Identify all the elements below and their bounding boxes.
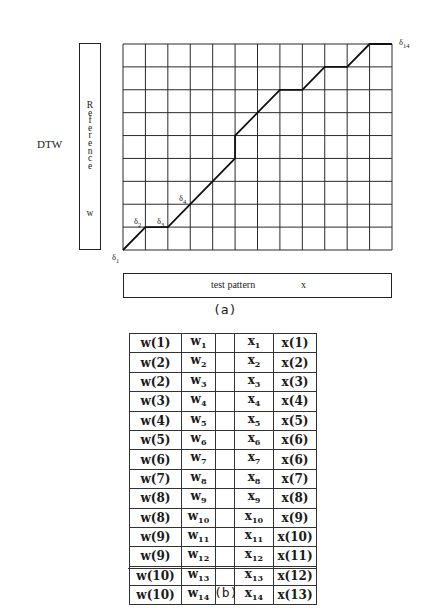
w-index-cell: w(2) (130, 372, 182, 391)
table-row: w(9)w12x12x(11) (130, 547, 317, 566)
w-sub-cell: w5 (182, 411, 216, 430)
dtw-diagram: DTW R e f e r e n c e w δ1 δ2 δ3 δ4 δ14 … (0, 0, 435, 330)
spacer-cell (216, 450, 235, 469)
x-sub-cell: x7 (235, 450, 274, 469)
x-sub-cell: x14 (235, 586, 274, 605)
spacer-cell (216, 527, 235, 546)
w-index-cell: w(3) (130, 392, 182, 411)
alignment-table-body: w(1)w1x1x(1)w(2)w2x2x(2)w(2)w3x3x(3)w(3)… (130, 334, 317, 605)
w-sub-cell: w13 (182, 566, 216, 585)
table-row: w(9)w11x11x(10) (130, 527, 317, 546)
table-row: w(10)w13x13x(12) (130, 566, 317, 585)
x-sub-cell: x3 (235, 372, 274, 391)
x-sub-cell: x13 (235, 566, 274, 585)
delta-2-label: δ2 (134, 216, 141, 228)
x-index-cell: x(1) (274, 334, 317, 353)
w-sub-cell: w14 (182, 586, 216, 605)
caption-a: (a) (213, 302, 236, 317)
x-sub-cell: x4 (235, 392, 274, 411)
w-index-cell: w(5) (130, 430, 182, 449)
x-index-cell: x(9) (274, 508, 317, 527)
w-sub-cell: w9 (182, 489, 216, 508)
x-index-cell: x(4) (274, 392, 317, 411)
spacer-cell (216, 566, 235, 585)
w-index-cell: w(1) (130, 334, 182, 353)
x-index-cell: x(2) (274, 353, 317, 372)
w-index-cell: w(8) (130, 508, 182, 527)
x-index-cell: x(7) (274, 469, 317, 488)
delta-1-label: δ1 (112, 252, 119, 264)
table-row: w(8)w9x9x(8) (130, 489, 317, 508)
w-index-cell: w(9) (130, 527, 182, 546)
w-sub-cell: w8 (182, 469, 216, 488)
w-index-cell: w(10) (130, 586, 182, 605)
x-index-cell: x(6) (274, 430, 317, 449)
test-pattern-symbol: x (301, 279, 306, 290)
x-sub-cell: x9 (235, 489, 274, 508)
w-sub-cell: w1 (182, 334, 216, 353)
caption-b: (b) (214, 585, 237, 600)
w-index-cell: w(7) (130, 469, 182, 488)
table-row: w(2)w2x2x(2) (130, 353, 317, 372)
x-sub-cell: x5 (235, 411, 274, 430)
spacer-cell (216, 411, 235, 430)
spacer-cell (216, 430, 235, 449)
x-sub-cell: x8 (235, 469, 274, 488)
spacer-cell (216, 392, 235, 411)
x-index-cell: x(5) (274, 411, 317, 430)
x-index-cell: x(11) (274, 547, 317, 566)
table-row: w(8)w10x10x(9) (130, 508, 317, 527)
w-sub-cell: w7 (182, 450, 216, 469)
x-index-cell: x(12) (274, 566, 317, 585)
spacer-cell (216, 334, 235, 353)
spacer-cell (216, 547, 235, 566)
spacer-cell (216, 489, 235, 508)
x-index-cell: x(10) (274, 527, 317, 546)
x-sub-cell: x1 (235, 334, 274, 353)
table-row: w(1)w1x1x(1) (130, 334, 317, 353)
w-sub-cell: w10 (182, 508, 216, 527)
x-sub-cell: x12 (235, 547, 274, 566)
w-index-cell: w(8) (130, 489, 182, 508)
w-index-cell: w(10) (130, 566, 182, 585)
spacer-cell (216, 508, 235, 527)
spacer-cell (216, 372, 235, 391)
table-row: w(3)w4x4x(4) (130, 392, 317, 411)
w-index-cell: w(9) (130, 547, 182, 566)
delta-14-label: δ14 (399, 37, 410, 49)
x-sub-cell: x6 (235, 430, 274, 449)
x-index-cell: x(8) (274, 489, 317, 508)
x-index-cell: x(6) (274, 450, 317, 469)
w-sub-cell: w3 (182, 372, 216, 391)
delta-4-label: δ4 (179, 193, 186, 205)
test-pattern-box: test pattern x (123, 273, 392, 298)
table-row: w(5)w6x6x(6) (130, 430, 317, 449)
x-index-cell: x(13) (274, 586, 317, 605)
spacer-cell (216, 353, 235, 372)
table-row: w(4)w5x5x(5) (130, 411, 317, 430)
table-row: w(2)w3x3x(3) (130, 372, 317, 391)
test-pattern-label: test pattern (211, 279, 255, 290)
table-row: w(7)w8x8x(7) (130, 469, 317, 488)
w-sub-cell: w2 (182, 353, 216, 372)
w-index-cell: w(6) (130, 450, 182, 469)
delta-3-label: δ3 (157, 216, 164, 228)
x-sub-cell: x10 (235, 508, 274, 527)
w-sub-cell: w12 (182, 547, 216, 566)
w-index-cell: w(2) (130, 353, 182, 372)
table-bottom-rule (128, 568, 317, 569)
w-index-cell: w(4) (130, 411, 182, 430)
x-sub-cell: x2 (235, 353, 274, 372)
w-sub-cell: w4 (182, 392, 216, 411)
x-index-cell: x(3) (274, 372, 317, 391)
alignment-table: w(1)w1x1x(1)w(2)w2x2x(2)w(2)w3x3x(3)w(3)… (129, 333, 317, 605)
x-sub-cell: x11 (235, 527, 274, 546)
table-row: w(6)w7x7x(6) (130, 450, 317, 469)
w-sub-cell: w6 (182, 430, 216, 449)
spacer-cell (216, 469, 235, 488)
w-sub-cell: w11 (182, 527, 216, 546)
